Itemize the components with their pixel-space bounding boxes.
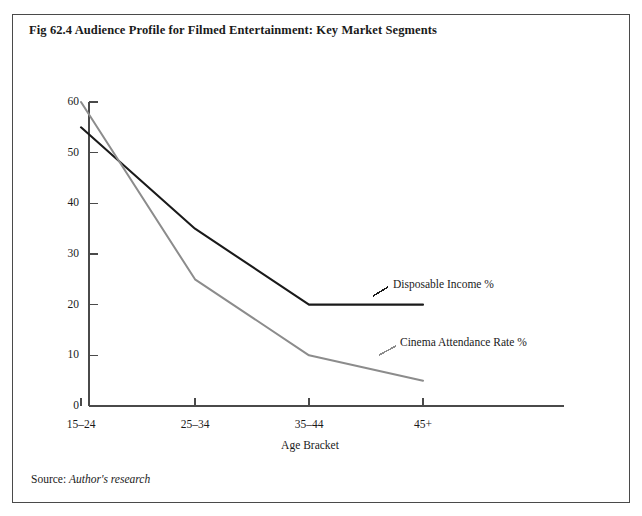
series-label-cinema-attendance: Cinema Attendance Rate % xyxy=(400,337,527,349)
figure-frame: Fig 62.4 Audience Profile for Filmed Ent… xyxy=(12,14,630,503)
chart-tick-marks xyxy=(81,102,423,406)
y-tick-label-0: 0 xyxy=(53,400,79,412)
y-tick-label-10: 10 xyxy=(53,349,79,361)
x-tick-label-0: 15–24 xyxy=(46,419,116,431)
line-chart-svg xyxy=(13,15,631,504)
y-tick-label-60: 60 xyxy=(53,96,79,108)
x-tick-label-3: 45+ xyxy=(388,419,458,431)
chart-axes xyxy=(89,102,564,406)
source-note: Source: Author's research xyxy=(31,473,150,485)
chart-plot-area: 0102030405060 15–2425–3435–4445+ Age Bra… xyxy=(13,15,631,504)
source-value: Author's research xyxy=(69,473,150,485)
chart-series-lines xyxy=(81,102,423,381)
chart-annotation-leaders xyxy=(373,287,396,355)
leader-cinema-attendance xyxy=(379,346,396,355)
series-label-disposable-income: Disposable Income % xyxy=(393,279,494,291)
y-tick-label-50: 50 xyxy=(53,147,79,159)
x-axis-title-text: Age Bracket xyxy=(281,439,339,451)
series-line-0 xyxy=(81,127,423,304)
x-axis-title: Age Bracket xyxy=(13,439,631,451)
y-tick-label-40: 40 xyxy=(53,197,79,209)
leader-disposable-income xyxy=(373,287,388,296)
series-line-1 xyxy=(81,102,423,381)
x-tick-label-2: 35–44 xyxy=(274,419,344,431)
y-tick-label-20: 20 xyxy=(53,299,79,311)
y-tick-label-30: 30 xyxy=(53,248,79,260)
x-tick-label-1: 25–34 xyxy=(160,419,230,431)
source-label: Source: xyxy=(31,473,66,485)
